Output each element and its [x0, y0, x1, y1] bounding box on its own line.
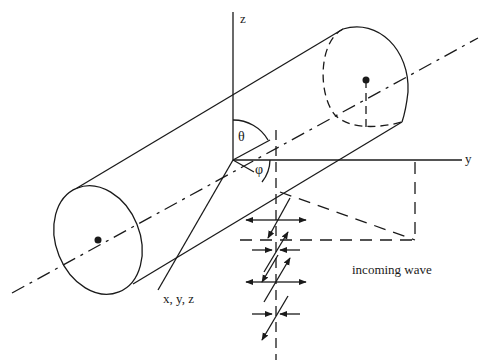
- phi-label: φ: [255, 163, 263, 177]
- phi-arc: [262, 160, 270, 182]
- front-face-center-dot: [95, 237, 102, 244]
- projection-diagonal-dashed: [280, 192, 415, 240]
- y-axis-label: y: [465, 152, 472, 165]
- cylinder-bottom-edge: [133, 122, 402, 284]
- z-axis-label: z: [240, 12, 246, 25]
- theta-label: θ: [238, 130, 245, 144]
- incoming-wave-label: incoming wave: [352, 263, 432, 276]
- observation-direction-label: x, y, z: [163, 292, 194, 305]
- observation-direction-line: [158, 160, 233, 290]
- cylinder-scattering-diagram: [0, 0, 488, 360]
- cylinder-axis-centerline: [12, 38, 478, 293]
- cylinder-back-face-hidden: [323, 29, 402, 126]
- cylinder-top-edge: [77, 29, 343, 188]
- cylinder-back-face-visible: [343, 27, 408, 122]
